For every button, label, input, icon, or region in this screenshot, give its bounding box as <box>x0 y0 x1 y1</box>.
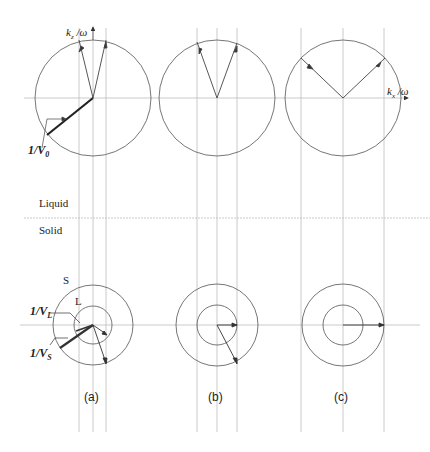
vl-label: 1/VL <box>30 304 52 320</box>
kz-axis-label: kz /ω <box>66 26 87 41</box>
l-circle-label: L <box>75 295 82 307</box>
slowness-diagram <box>0 0 430 452</box>
liquid-label: Liquid <box>39 197 68 209</box>
caption-b: (b) <box>208 390 223 404</box>
caption-c: (c) <box>334 390 348 404</box>
s-circle-label: S <box>63 274 69 286</box>
kx-axis-label: kx /ω <box>387 85 409 100</box>
vs-label: 1/VS <box>30 346 52 362</box>
caption-a: (a) <box>84 390 99 404</box>
vertical-guides <box>79 28 384 432</box>
v0-label: 1/V0 <box>28 143 49 159</box>
solid-label: Solid <box>39 224 62 236</box>
